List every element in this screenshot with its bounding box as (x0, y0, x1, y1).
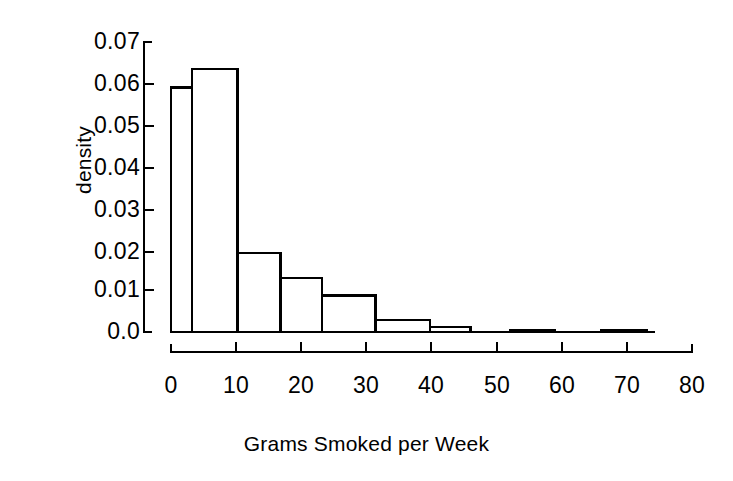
x-tick-label: 80 (669, 374, 715, 397)
x-tick-label: 0 (148, 374, 194, 397)
x-axis-title: Grams Smoked per Week (0, 432, 733, 456)
x-tick-label: 50 (474, 374, 520, 397)
histogram-figure: 0.07 0.06 0.05 0.04 0.03 0.02 0.01 0.0 0… (0, 0, 733, 481)
x-tick-label: 60 (539, 374, 585, 397)
x-tick-label: 20 (278, 374, 324, 397)
y-axis-title: density (69, 100, 99, 220)
x-tick-label: 40 (408, 374, 454, 397)
x-axis-tick-labels: 0 10 20 30 40 50 60 70 80 (0, 0, 733, 481)
x-tick-label: 10 (213, 374, 259, 397)
x-tick-label: 70 (604, 374, 650, 397)
x-tick-label: 30 (343, 374, 389, 397)
